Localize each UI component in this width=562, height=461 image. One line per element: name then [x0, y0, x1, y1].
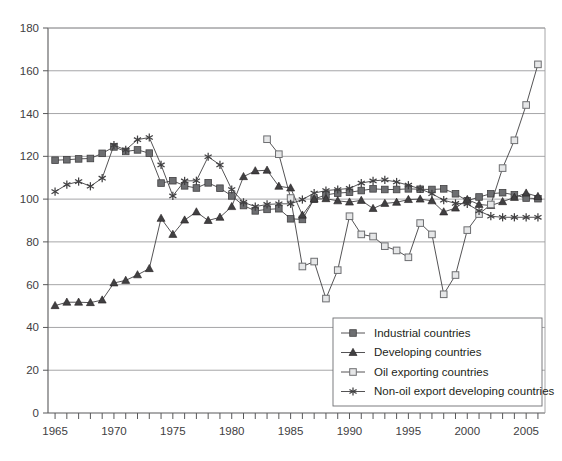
x-axis-label-1970: 1970	[101, 425, 127, 437]
x-axis-label-1990: 1990	[337, 425, 363, 437]
marker-filled-square	[440, 186, 447, 193]
marker-open-square	[464, 227, 471, 234]
marker-filled-triangle	[98, 296, 106, 303]
marker-filled-triangle	[522, 189, 530, 196]
series-line-2	[267, 64, 538, 298]
x-axis-label-1965: 1965	[42, 425, 68, 437]
marker-filled-triangle	[192, 208, 200, 215]
marker-filled-square	[370, 186, 377, 193]
marker-filled-square	[52, 157, 59, 164]
marker-filled-square	[64, 156, 71, 163]
marker-open-square	[264, 136, 271, 143]
y-axis-labels: 020406080100120140160180	[20, 22, 39, 419]
marker-filled-triangle	[475, 200, 483, 207]
marker-filled-square	[158, 180, 165, 187]
marker-filled-triangle	[240, 172, 248, 179]
marker-asterisk	[99, 174, 106, 182]
marker-asterisk	[87, 182, 94, 190]
marker-open-square	[393, 247, 400, 254]
marker-filled-square	[205, 180, 212, 187]
marker-filled-square	[87, 155, 94, 162]
marker-open-square	[511, 137, 518, 144]
x-axis-label-1975: 1975	[160, 425, 186, 437]
marker-open-square	[488, 201, 495, 208]
marker-asterisk	[216, 161, 223, 169]
marker-open-square	[535, 61, 542, 68]
y-axis-label-140: 140	[20, 108, 39, 120]
marker-filled-triangle	[75, 298, 83, 305]
marker-filled-square	[228, 193, 235, 200]
marker-filled-triangle	[145, 264, 153, 271]
series-1	[51, 166, 542, 309]
marker-open-square	[323, 295, 330, 302]
legend-label-1: Developing countries	[374, 346, 482, 358]
marker-filled-square	[452, 190, 459, 197]
chart-container: 020406080100120140160180 196519701975198…	[0, 0, 562, 461]
data-series	[51, 61, 542, 309]
marker-filled-square	[146, 150, 153, 157]
x-axis-label-1985: 1985	[278, 425, 304, 437]
marker-filled-square	[393, 186, 400, 193]
y-axis-label-20: 20	[26, 364, 39, 376]
x-axis-labels: 196519701975198019851990199520002005	[42, 425, 539, 437]
x-axis-label-1995: 1995	[396, 425, 422, 437]
x-axis-ticks	[55, 413, 538, 419]
marker-filled-square	[287, 215, 294, 222]
marker-asterisk	[63, 180, 70, 188]
series-line-0	[55, 147, 538, 220]
marker-filled-square	[350, 330, 357, 337]
y-axis-label-0: 0	[33, 407, 39, 419]
marker-open-square	[499, 165, 506, 172]
series-2	[264, 61, 541, 302]
marker-asterisk	[158, 161, 165, 169]
legend-label-2: Oil exporting countries	[374, 366, 489, 378]
marker-open-square	[452, 272, 459, 279]
series-3	[52, 133, 542, 221]
marker-filled-triangle	[369, 204, 377, 211]
marker-filled-triangle	[357, 196, 365, 203]
marker-filled-square	[217, 185, 224, 192]
marker-filled-triangle	[416, 195, 424, 202]
legend-label-3: Non-oil export developing countries	[374, 385, 555, 397]
marker-filled-square	[382, 186, 389, 193]
marker-open-square	[440, 291, 447, 298]
marker-asterisk	[52, 188, 59, 196]
line-chart: 020406080100120140160180 196519701975198…	[0, 0, 562, 461]
y-axis-label-180: 180	[20, 22, 39, 34]
marker-open-square	[334, 267, 341, 274]
marker-open-square	[311, 258, 318, 265]
marker-filled-square	[99, 150, 106, 157]
legend-label-0: Industrial countries	[374, 327, 471, 339]
marker-open-square	[382, 243, 389, 250]
marker-asterisk	[440, 196, 447, 204]
marker-filled-square	[499, 189, 506, 196]
y-axis-label-60: 60	[26, 279, 39, 291]
y-axis-label-120: 120	[20, 150, 39, 162]
marker-open-square	[346, 213, 353, 220]
marker-open-square	[358, 231, 365, 238]
x-axis-label-2005: 2005	[513, 425, 539, 437]
marker-open-square	[523, 102, 530, 109]
marker-open-square	[276, 151, 283, 158]
marker-open-square	[429, 231, 436, 238]
y-axis-label-100: 100	[20, 193, 39, 205]
marker-open-square	[405, 254, 412, 261]
marker-filled-square	[75, 156, 82, 163]
series-0	[52, 144, 541, 223]
marker-filled-triangle	[157, 214, 165, 221]
marker-asterisk	[75, 177, 82, 185]
marker-filled-triangle	[122, 276, 130, 283]
marker-filled-square	[134, 147, 141, 154]
marker-filled-triangle	[134, 271, 142, 278]
marker-filled-square	[193, 185, 200, 192]
marker-filled-triangle	[228, 202, 236, 209]
y-axis-label-40: 40	[26, 321, 39, 333]
legend-item-3[interactable]: Non-oil export developing countries	[341, 385, 555, 397]
marker-filled-triangle	[63, 298, 71, 305]
marker-filled-square	[358, 187, 365, 194]
marker-open-square	[417, 220, 424, 227]
x-axis-label-2000: 2000	[454, 425, 480, 437]
marker-open-square	[299, 263, 306, 270]
chart-legend: Industrial countriesDeveloping countries…	[333, 318, 555, 406]
x-axis-label-1980: 1980	[219, 425, 245, 437]
